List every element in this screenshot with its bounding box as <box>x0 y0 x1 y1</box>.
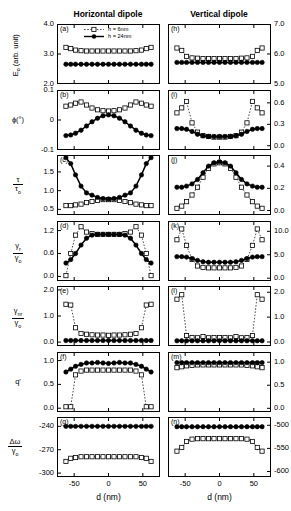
data-point-h6 <box>175 238 179 242</box>
ytick-label-k-0: 0.0 <box>274 274 291 282</box>
ytick-label-k-2: 10.0 <box>274 227 291 235</box>
data-point-h6 <box>64 302 68 306</box>
data-point-h6 <box>123 368 127 372</box>
data-point-h24 <box>260 60 264 64</box>
data-point-h24 <box>239 258 243 262</box>
data-point-h24 <box>144 367 148 371</box>
data-point-h24 <box>239 424 243 428</box>
data-point-h6 <box>84 49 88 53</box>
data-point-h6 <box>260 297 264 301</box>
data-point-h24 <box>128 338 132 342</box>
data-point-h24 <box>144 62 148 66</box>
data-point-h6 <box>128 455 132 459</box>
ytick-label-j-2: 0.4 <box>274 162 291 170</box>
data-point-h24 <box>245 256 249 260</box>
data-point-h24 <box>228 360 232 364</box>
data-point-h24 <box>79 184 83 188</box>
data-point-h24 <box>106 113 110 117</box>
data-point-h24 <box>239 177 243 181</box>
data-point-h24 <box>101 114 105 118</box>
data-point-h24 <box>201 60 205 64</box>
data-point-h24 <box>206 134 210 138</box>
ytick-label-b-0: -0.1 <box>16 146 54 154</box>
data-point-h24 <box>106 338 110 342</box>
data-point-h6 <box>90 368 94 372</box>
data-point-h24 <box>250 424 254 428</box>
data-point-h24 <box>206 260 210 264</box>
data-point-h24 <box>217 60 221 64</box>
data-point-h24 <box>239 360 243 364</box>
data-point-h24 <box>217 260 221 264</box>
data-point-h6 <box>180 204 184 208</box>
data-point-h6 <box>260 238 264 242</box>
data-point-h6 <box>255 227 259 231</box>
data-point-h6 <box>175 206 179 210</box>
data-point-h24 <box>184 184 188 188</box>
data-point-h24 <box>245 60 249 64</box>
data-point-h24 <box>64 261 68 265</box>
data-point-h6 <box>101 109 105 113</box>
data-point-h6 <box>84 455 88 459</box>
data-point-h6 <box>234 334 238 338</box>
data-point-h24 <box>212 260 216 264</box>
data-point-h6 <box>184 99 188 103</box>
data-point-h24 <box>117 62 121 66</box>
panel-plot-f <box>57 352 160 412</box>
data-point-h24 <box>117 232 121 236</box>
data-point-h6 <box>73 48 77 52</box>
data-point-h6 <box>223 266 227 270</box>
data-point-h24 <box>84 124 88 128</box>
data-point-h6 <box>201 265 205 269</box>
data-point-h24 <box>117 195 121 199</box>
data-point-h24 <box>245 339 249 343</box>
data-point-h6 <box>195 437 199 441</box>
data-point-h6 <box>79 202 83 206</box>
data-point-h24 <box>195 339 199 343</box>
data-point-h24 <box>90 233 94 237</box>
ytick-label-j-0: 0.0 <box>274 207 291 215</box>
ylabel-f: q' <box>8 377 28 386</box>
panel-k: (k) <box>168 221 271 281</box>
ytick-label-m-2: 1.0 <box>274 358 291 366</box>
data-point-h24 <box>106 361 110 365</box>
data-point-h6 <box>255 293 259 297</box>
data-point-h24 <box>95 195 99 199</box>
xtick-label-left-1: 0 <box>94 480 124 488</box>
data-point-h24 <box>190 424 194 428</box>
data-point-h24 <box>84 424 88 428</box>
data-point-h6 <box>79 49 83 53</box>
data-point-h24 <box>149 424 153 428</box>
data-point-h6 <box>175 449 179 453</box>
data-point-h6 <box>212 437 216 441</box>
data-point-h24 <box>128 191 132 195</box>
data-point-h6 <box>175 111 179 115</box>
data-point-h24 <box>255 424 259 428</box>
ytick-label-m-0: 0.0 <box>274 404 291 412</box>
data-point-h6 <box>106 49 110 53</box>
data-point-h6 <box>112 49 116 53</box>
data-point-h24 <box>255 185 259 189</box>
data-point-h24 <box>260 339 264 343</box>
data-point-h24 <box>144 338 148 342</box>
panel-plot-j <box>168 155 271 215</box>
panel-plot-l <box>168 286 271 346</box>
data-point-h6 <box>128 49 132 53</box>
data-point-h24 <box>139 173 143 177</box>
data-point-h24 <box>250 184 254 188</box>
data-point-h24 <box>134 338 138 342</box>
data-point-h24 <box>175 360 179 364</box>
data-point-h6 <box>64 405 68 409</box>
data-point-h24 <box>95 232 99 236</box>
data-point-h24 <box>101 338 105 342</box>
data-point-h6 <box>149 405 153 409</box>
data-point-h6 <box>250 333 254 337</box>
xtick-label-left-2: 50 <box>128 480 158 488</box>
data-point-h24 <box>69 338 73 342</box>
data-point-h24 <box>64 338 68 342</box>
data-point-h6 <box>128 201 132 205</box>
data-point-h6 <box>190 437 194 441</box>
panel-b: (b) <box>57 90 160 150</box>
panel-f: (f) <box>57 352 160 412</box>
panel-plot-c <box>57 155 160 215</box>
legend-item-h24: h = 24nm <box>83 33 131 40</box>
